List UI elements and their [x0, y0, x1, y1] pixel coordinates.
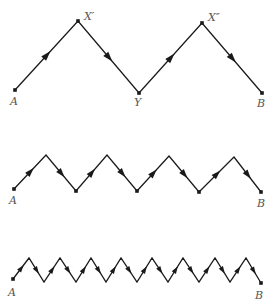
panel-top: AX′YX″B [9, 10, 265, 110]
zigzag-path-line [15, 21, 262, 93]
arrowhead-icon [234, 265, 242, 274]
panel-middle: AB [8, 155, 265, 210]
vertex-dot [200, 21, 204, 25]
point-label: Y [134, 96, 143, 109]
vertex-dot [76, 19, 80, 23]
vertex-dot [137, 91, 141, 95]
arrowhead-icon [141, 265, 149, 274]
vertex-dot [13, 88, 17, 92]
vertex-dot [259, 281, 263, 285]
arrowhead-icon [156, 266, 164, 275]
arrowhead-icon [48, 265, 56, 274]
vertex-dot [11, 277, 15, 281]
point-label: X′ [83, 10, 95, 23]
arrowhead-icon [219, 266, 227, 275]
arrowhead-icon [250, 267, 258, 276]
arrowhead-icon [172, 265, 180, 274]
arrowhead-icon [203, 265, 211, 274]
point-label: B [256, 97, 265, 110]
vertex-dot [135, 189, 139, 193]
vertex-dot [197, 190, 201, 194]
vertex-dot [74, 189, 78, 193]
vertex-dot [259, 190, 263, 194]
arrowhead-icon [95, 266, 103, 275]
point-label: B [254, 289, 263, 302]
arrowhead-icon [110, 265, 118, 274]
vertex-dot [260, 91, 264, 95]
arrowhead-icon [187, 266, 195, 275]
point-label: A [8, 194, 17, 207]
zigzag-paths-diagram: AX′YX″B AB AB [0, 0, 278, 307]
point-label: A [7, 286, 16, 299]
point-label: B [256, 197, 265, 210]
arrowhead-icon [64, 266, 72, 275]
point-label: A [9, 95, 18, 108]
panel-bottom: AB [7, 258, 263, 302]
arrowhead-icon [33, 266, 41, 275]
arrowhead-icon [125, 266, 133, 275]
zigzag-path-line [14, 155, 261, 192]
point-label: X″ [207, 11, 221, 24]
arrowhead-icon [80, 265, 88, 274]
vertex-dot [12, 187, 16, 191]
